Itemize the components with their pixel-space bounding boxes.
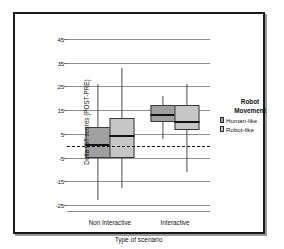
legend-label: Human-like [226,117,257,124]
y-tick-label: 45 [58,36,64,43]
gridline [67,205,210,206]
legend-label: Robot-like [226,126,254,133]
box-rect [110,118,135,157]
legend-swatch [220,126,224,132]
y-tick-mark [64,134,67,135]
y-tick-mark [64,39,67,40]
y-tick-label: 5 [61,130,64,137]
legend-entry-group: Human-likeRobot-like [220,116,280,133]
x-axis-line [67,211,210,212]
y-tick-label: -5 [59,154,64,161]
median-line [175,121,200,123]
chart-screenshot: 453525155-5-15-25 Non InteractiveInterac… [0,0,284,249]
y-tick-mark [64,86,67,87]
y-tick-label: -15 [56,178,64,185]
y-tick-label: 25 [58,83,64,90]
legend-entry: Robot-like [220,125,280,133]
y-tick-mark [64,181,67,182]
y-tick-label: 15 [58,107,64,114]
y-tick-mark [64,158,67,159]
median-line [150,114,175,116]
legend: Robot Movement Human-likeRobot-like [220,98,280,133]
x-tick-label: Non Interactive [89,219,131,226]
gridline [67,39,210,40]
y-tick-mark [64,63,67,64]
figure-frame: 453525155-5-15-25 Non InteractiveInterac… [13,12,265,234]
y-tick-mark [64,205,67,206]
y-axis-title: Delta IST scores (POST-PRE) [83,47,90,197]
median-line [110,135,135,137]
legend-swatch [220,117,224,123]
y-tick-label: -25 [56,201,64,208]
x-axis-title: Type of scenario [67,236,210,243]
legend-title-line-1: Robot [220,98,280,107]
legend-title-line-2: Movement [220,107,280,116]
y-tick-mark [64,110,67,111]
x-tick-label: Interactive [160,219,189,226]
plot-area: 453525155-5-15-25 Non InteractiveInterac… [67,32,210,212]
legend-entry: Human-like [220,116,280,124]
box-rect [175,105,200,130]
y-tick-label: 35 [58,59,64,66]
